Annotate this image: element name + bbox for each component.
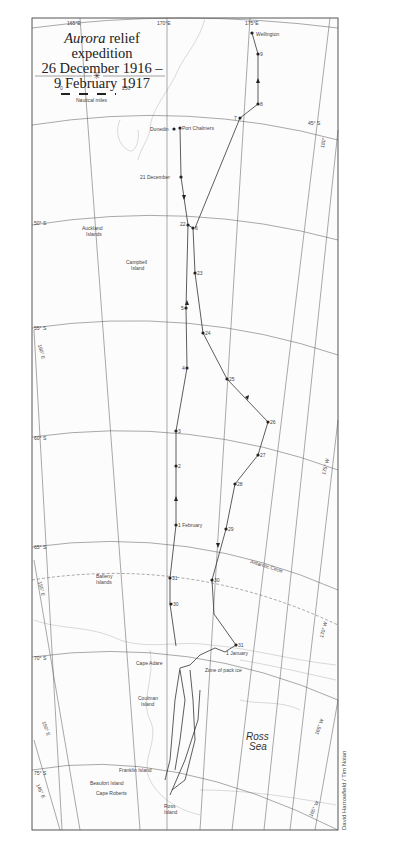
title-line2: 26 December 1916 – [41,60,162,76]
svg-text:1 February: 1 February [178,522,203,528]
svg-text:55° S: 55° S [34,325,47,331]
svg-text:Port Chalmers: Port Chalmers [182,125,214,131]
svg-text:4: 4 [182,365,185,371]
svg-text:29: 29 [228,526,234,532]
svg-text:Islands: Islands [96,579,112,585]
svg-text:Zone of pack ice: Zone of pack ice [205,667,242,673]
svg-text:Island: Island [141,701,155,707]
map-credit: David Harrowfield / Tim Nolan [341,751,347,830]
svg-text:Franklin Island: Franklin Island [119,767,152,773]
svg-text:7: 7 [234,115,237,121]
svg-text:65° S: 65° S [34,544,47,550]
svg-text:75° S: 75° S [34,770,47,776]
svg-text:27: 27 [260,452,266,458]
svg-text:165°E: 165°E [67,20,81,26]
svg-text:5: 5 [181,305,184,311]
svg-text:31: 31 [172,575,178,581]
svg-text:70° S: 70° S [34,655,47,661]
svg-text:31: 31 [238,642,244,648]
svg-text:9: 9 [260,51,263,57]
svg-text:Cape Adare: Cape Adare [136,660,163,666]
svg-text:60° S: 60° S [34,435,47,441]
svg-text:Island: Island [131,265,145,271]
svg-text:6: 6 [195,225,198,231]
svg-text:170°E: 170°E [157,20,171,26]
map-frame [32,18,338,830]
svg-text:1 January: 1 January [226,650,248,656]
svg-text:Wellington: Wellington [256,31,279,37]
svg-text:24: 24 [205,330,211,336]
svg-text:28: 28 [237,481,243,487]
svg-text:175°E: 175°E [245,20,259,26]
svg-text:26: 26 [270,419,276,425]
svg-text:2: 2 [178,463,181,469]
expedition-map: 165°E 170°E 175°E 45° S 50° S 55° S 60° … [0,0,393,859]
svg-text:25: 25 [229,376,235,382]
svg-text:45° S: 45° S [308,120,321,126]
title-ship-name: Aurora [64,30,105,46]
svg-text:21 December: 21 December [140,174,170,180]
svg-text:Beaufort Island: Beaufort Island [90,780,124,786]
svg-text:30: 30 [173,601,179,607]
svg-text:30: 30 [214,577,220,583]
svg-text:Nautical miles: Nautical miles [76,97,108,103]
svg-text:Islands: Islands [86,231,102,237]
svg-text:3: 3 [178,428,181,434]
svg-text:50° S: 50° S [34,220,47,226]
title-line3: 9 February 1917 [54,75,150,91]
svg-text:8: 8 [260,101,263,107]
svg-text:Dunedin: Dunedin [150,126,169,132]
map-title: Aurora relief expedition 26 December 191… [32,31,172,91]
svg-text:22: 22 [180,221,186,227]
svg-text:Sea: Sea [249,741,267,752]
svg-text:23: 23 [197,270,203,276]
svg-text:Island: Island [164,809,178,815]
svg-text:Cape Roberts: Cape Roberts [96,790,127,796]
